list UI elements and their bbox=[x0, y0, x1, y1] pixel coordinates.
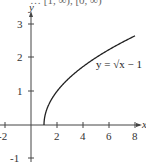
x-axis-label: x bbox=[141, 118, 146, 130]
x-tick-label: 8 bbox=[132, 130, 138, 142]
y-tick-label: 1 bbox=[17, 85, 23, 97]
x-tick-label: 2 bbox=[54, 130, 60, 142]
x-tick-label: 6 bbox=[106, 130, 112, 142]
chart: … [1, ∞), [0, ∞) y x -2 2 4 6 8 3 2 1 -1… bbox=[0, 0, 146, 163]
x-tick-label: 4 bbox=[80, 130, 86, 142]
function-curve bbox=[44, 36, 135, 125]
y-tick-label: 3 bbox=[17, 18, 23, 30]
x-tick-label: -2 bbox=[0, 130, 7, 142]
y-tick-label: -1 bbox=[10, 152, 19, 163]
y-tick-label: 2 bbox=[17, 51, 23, 63]
y-axis-label: y bbox=[28, 1, 34, 13]
cropped-caption: … [1, ∞), [0, ∞) bbox=[30, 0, 102, 7]
equation-label: y = √x − 1 bbox=[96, 58, 142, 70]
